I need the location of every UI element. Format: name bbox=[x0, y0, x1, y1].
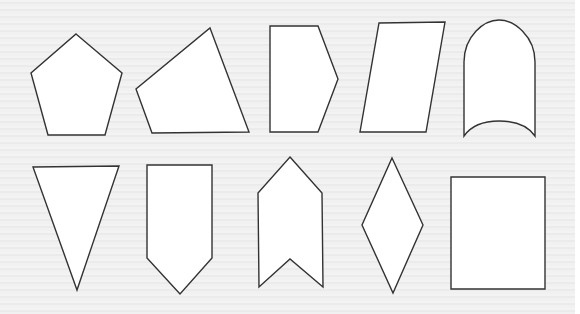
quadrilateral-shape bbox=[136, 28, 249, 133]
pentagon-down-shape bbox=[147, 165, 212, 294]
chevron-shape bbox=[258, 157, 323, 287]
shapes-canvas bbox=[0, 0, 575, 314]
pentagon-shape bbox=[31, 34, 122, 135]
inverted-triangle-shape bbox=[33, 166, 119, 290]
shapes-figure bbox=[0, 0, 575, 314]
arrow-pentagon-shape bbox=[270, 26, 338, 132]
rhombus-shape bbox=[362, 158, 423, 293]
rectangle-shape bbox=[451, 177, 545, 289]
arch-shape bbox=[464, 20, 535, 136]
parallelogram-shape bbox=[360, 22, 445, 132]
